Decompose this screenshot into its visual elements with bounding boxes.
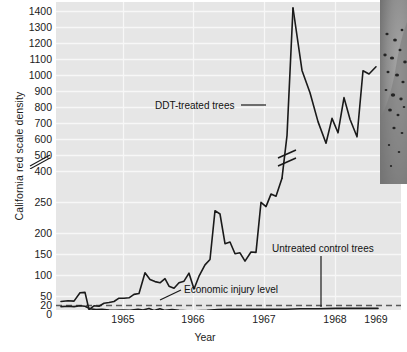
- x-axis-title: Year: [160, 331, 250, 343]
- x-tick-1969: 1969: [346, 313, 406, 325]
- x-tick-1966: 1966: [163, 313, 223, 325]
- y-tick-900: 900: [4, 86, 52, 96]
- plot-area: [56, 2, 401, 310]
- inset-photograph: [380, 0, 407, 184]
- y-tick-700: 700: [4, 118, 52, 128]
- y-tick-200: 200: [4, 228, 52, 238]
- y-tick-1400: 1400: [4, 6, 52, 16]
- y-axis-break-icon: [28, 153, 54, 169]
- data-line-break-icon: [278, 150, 296, 166]
- y-tick-600: 600: [4, 134, 52, 144]
- series-line-untreated-control-trees: [61, 306, 378, 310]
- y-axis-tick-labels: 1400 1300 1200 1100 1000 900 800 700 600…: [0, 0, 52, 352]
- y-axis-title: California red scale density: [13, 41, 25, 271]
- y-tick-1200: 1200: [4, 38, 52, 48]
- annotation-ddt-treated-trees: DDT-treated trees: [155, 100, 234, 111]
- annotation-economic-injury-level: Economic injury level: [184, 284, 278, 295]
- y-tick-0: 0: [4, 309, 52, 319]
- y-tick-1300: 1300: [4, 22, 52, 32]
- x-tick-1965: 1965: [93, 313, 153, 325]
- y-tick-1000: 1000: [4, 70, 52, 80]
- y-tick-150: 150: [4, 249, 52, 259]
- plot-canvas: [56, 2, 401, 310]
- y-tick-800: 800: [4, 102, 52, 112]
- x-tick-1967: 1967: [234, 313, 294, 325]
- y-tick-100: 100: [4, 270, 52, 280]
- annotation-untreated-control-trees: Untreated control trees: [272, 243, 374, 254]
- y-tick-250: 250: [4, 197, 52, 207]
- chart-figure: 1400 1300 1200 1100 1000 900 800 700 600…: [0, 0, 407, 352]
- y-tick-1100: 1100: [4, 54, 52, 64]
